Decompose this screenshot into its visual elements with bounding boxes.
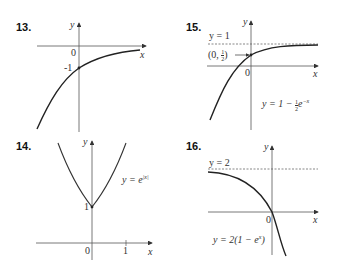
point-label: -1 (64, 62, 72, 73)
point (250, 54, 253, 57)
figure-number: 15. (186, 21, 201, 33)
origin-label: 0 (266, 214, 271, 225)
y-axis-label: y (70, 19, 74, 30)
curve (37, 50, 140, 129)
figure-number: 13. (16, 21, 31, 33)
y-axis-label: y (264, 141, 268, 152)
point (78, 67, 81, 70)
x-axis-label: x (148, 246, 152, 257)
asymptote-label: y = 1 (209, 30, 230, 41)
asymptote-label: y = 2 (209, 157, 230, 168)
origin-label: 0 (245, 67, 250, 78)
y-axis-label: y (243, 16, 247, 27)
curve-right (92, 143, 126, 207)
figure-canvas (0, 0, 338, 272)
origin-label: 0 (85, 245, 90, 256)
equation-label: y = e|x| (122, 174, 149, 185)
curve-left (58, 143, 92, 207)
y-axis-label: y (83, 136, 87, 147)
graph-14 (36, 141, 152, 260)
point-label: 1 (84, 201, 89, 212)
x-axis-label: x (140, 49, 144, 60)
equation-label: y = 2(1 − ex) (213, 234, 265, 245)
point-label: (0, 12) (208, 49, 228, 62)
graph-13 (37, 23, 146, 132)
equation-label: y = 1 − 12e−x (262, 98, 309, 112)
tick-label: 1 (123, 245, 128, 256)
point (91, 206, 94, 209)
figure-number: 14. (16, 140, 31, 152)
origin-label: 0 (71, 47, 76, 58)
x-axis-label: x (313, 214, 317, 225)
figure-number: 16. (186, 140, 201, 152)
x-axis-label: x (313, 68, 317, 79)
